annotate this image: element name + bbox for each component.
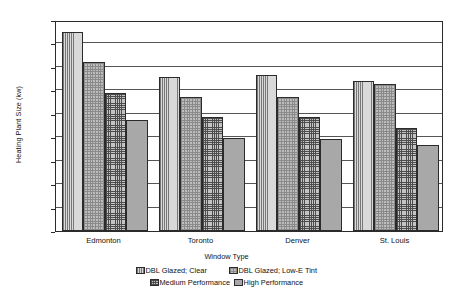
bar xyxy=(202,117,224,231)
bar xyxy=(396,128,418,231)
bar xyxy=(83,62,105,232)
bar xyxy=(105,93,127,231)
bar xyxy=(159,77,181,231)
legend-label: DBL Glazed; Low-E Tint xyxy=(238,266,317,275)
bar xyxy=(62,32,84,231)
x-axis-tick-label: Edmonton xyxy=(55,236,152,245)
legend-item-high-performance: High Performance xyxy=(234,278,303,287)
bar xyxy=(353,81,375,231)
x-axis-title: Window Type xyxy=(0,252,453,261)
bar xyxy=(299,117,321,231)
x-axis-tick-label: Denver xyxy=(249,236,346,245)
legend-item-dbl-glazed-low-e-tint: DBL Glazed; Low-E Tint xyxy=(229,266,317,275)
x-axis-tick-label: St. Louis xyxy=(346,236,443,245)
legend-swatch-icon-cross-hatch xyxy=(150,279,159,286)
legend-label: DBL Glazed; Clear xyxy=(146,266,207,275)
legend-item-dbl-glazed-clear: DBL Glazed; Clear xyxy=(136,266,207,275)
bars-layer xyxy=(56,22,442,231)
plot-area xyxy=(55,21,443,232)
y-axis-title: Heating Plant Size (kw) xyxy=(14,55,23,195)
chart-legend: DBL Glazed; Clear DBL Glazed; Low-E Tint… xyxy=(0,264,453,288)
legend-swatch-icon-vertical-lines xyxy=(136,267,145,274)
bar xyxy=(223,138,245,231)
legend-row-1: DBL Glazed; Clear DBL Glazed; Low-E Tint xyxy=(0,264,453,276)
legend-item-medium-performance: Medium Performance xyxy=(150,278,230,287)
legend-swatch-icon-solid-gray xyxy=(234,279,243,286)
bar xyxy=(126,120,148,231)
bar xyxy=(256,75,278,231)
y-axis-tick xyxy=(51,232,55,233)
x-axis-tick-label: Toronto xyxy=(152,236,249,245)
bar-chart-figure: Heating Plant Size (kw) 0100200300400500… xyxy=(0,0,453,299)
bar xyxy=(374,84,396,231)
legend-swatch-icon-fine-dots xyxy=(229,267,238,274)
bar xyxy=(320,139,342,231)
bar xyxy=(277,97,299,231)
legend-label: High Performance xyxy=(244,278,304,287)
legend-label: Medium Performance xyxy=(159,278,230,287)
bar xyxy=(417,145,439,231)
bar xyxy=(180,97,202,231)
legend-row-2: Medium Performance High Performance xyxy=(0,276,453,288)
